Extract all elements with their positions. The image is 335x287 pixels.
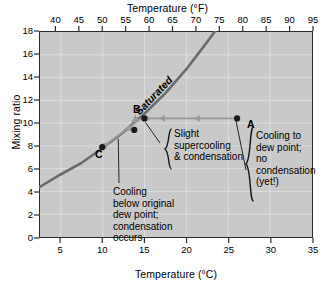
y-tick-label: 18 <box>9 26 33 36</box>
x-tick-label-f: 85 <box>261 15 272 25</box>
note-cooling-dewpoint: Cooling to dew point; no condensation (y… <box>256 130 316 188</box>
note-below-dewpoint: Cooling below original dew point; conden… <box>113 186 174 244</box>
point-label-b: B <box>133 103 141 115</box>
x-tick-label-f: 70 <box>191 15 202 25</box>
point-label-c: C <box>95 148 103 160</box>
x-tick-label-f: 95 <box>308 15 319 25</box>
x-tick-label-c: 25 <box>223 245 234 255</box>
note-supercooling: Slight supercooling & condensation <box>174 128 243 163</box>
x-tick-label-c: 35 <box>308 245 319 255</box>
x-tick-label-f: 50 <box>97 15 108 25</box>
y-tick-label: 12 <box>9 95 33 105</box>
x-tick-label-f: 90 <box>284 15 295 25</box>
y-tick-label: 6 <box>9 164 33 174</box>
figure-container: Temperature (°F) Temperature (°C) Mixing… <box>0 0 335 287</box>
x-tick-label-f: 40 <box>50 15 61 25</box>
y-tick-label: 16 <box>9 49 33 59</box>
x-tick-label-f: 45 <box>74 15 85 25</box>
y-tick-label: 0 <box>9 233 33 243</box>
y-tick-label: 4 <box>9 187 33 197</box>
x-tick-label-c: 5 <box>57 245 62 255</box>
y-tick-label: 2 <box>9 210 33 220</box>
x-tick-label-c: 20 <box>181 245 192 255</box>
bottom-axis-title: Temperature (°C) <box>39 268 313 280</box>
x-tick-label-f: 60 <box>144 15 155 25</box>
brace-supercooling <box>163 128 173 170</box>
y-tick-label: 14 <box>9 72 33 82</box>
y-tick-label: 8 <box>9 141 33 151</box>
x-tick-label-f: 55 <box>120 15 131 25</box>
x-tick-label-f: 65 <box>167 15 178 25</box>
x-tick-label-c: 30 <box>266 245 277 255</box>
x-tick-label-c: 15 <box>139 245 150 255</box>
y-tick-label: 10 <box>9 118 33 128</box>
x-tick-label-f: 75 <box>214 15 225 25</box>
brace-cooling-dewpoint <box>244 126 255 202</box>
x-tick-label-f: 80 <box>237 15 248 25</box>
x-tick-label-c: 10 <box>97 245 108 255</box>
